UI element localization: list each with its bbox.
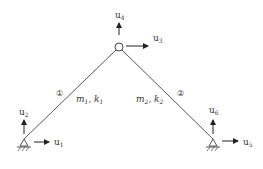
u4-label: u4: [115, 10, 125, 21]
u2-label: u2: [19, 107, 29, 118]
u6-label: u6: [209, 105, 219, 116]
element-2-marker: ②: [177, 89, 184, 98]
element-1-marker: ①: [56, 89, 63, 98]
element-1-properties: m1, k1: [76, 94, 103, 105]
left-pinned-support-icon: [17, 139, 31, 151]
hinge-node-icon: [115, 43, 123, 51]
u1-label: u1: [54, 137, 64, 148]
element-2-properties: m2, k2: [136, 94, 164, 105]
right-pinned-support-icon: [206, 139, 220, 151]
u3-label: u3: [153, 33, 163, 44]
element-1-member: [24, 50, 116, 139]
structure-diagram: u4 u3 u2 u1 u6 u5 ① ② m1, k1 m2, k2: [0, 0, 263, 169]
u5-label: u5: [243, 137, 253, 148]
